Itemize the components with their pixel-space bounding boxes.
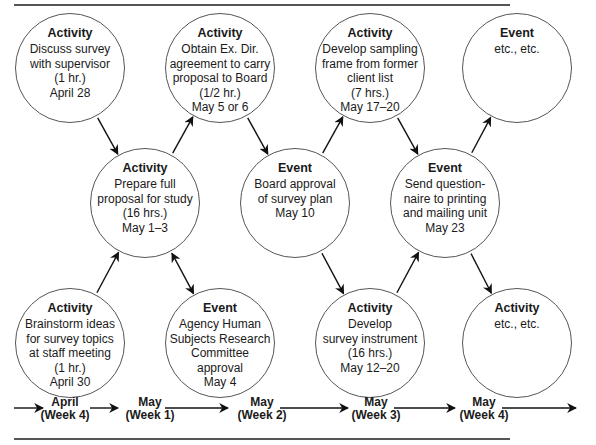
arrow-connector [248, 118, 268, 154]
node-discuss-survey: Activity Discuss survey with supervisor … [15, 13, 125, 123]
node-text: May 4 [204, 375, 237, 390]
arrow-connector [322, 253, 344, 293]
node-text: agreement to carry [170, 57, 271, 72]
node-kind: Event [278, 161, 312, 175]
node-text: Obtain Ex. Dir. [181, 42, 258, 57]
timeline-week: (Week 4) [25, 409, 105, 422]
node-text: Send question- [405, 177, 486, 192]
timeline-label: April (Week 4) [25, 396, 105, 422]
node-text: Committee [191, 346, 249, 361]
node-text: Develop [348, 317, 392, 332]
timeline-week: (Week 4) [444, 409, 524, 422]
arrow-connector [98, 118, 118, 154]
node-text: April 30 [50, 375, 91, 390]
node-kind: Activity [122, 161, 167, 175]
node-text: April 28 [50, 86, 91, 101]
node-brainstorm-ideas: Activity Brainstorm ideas for survey top… [15, 288, 125, 398]
timeline-week: (Week 1) [110, 409, 190, 422]
node-send-questionnaire: Event Send question- naire to printing a… [390, 148, 500, 258]
node-text: survey instrument [323, 332, 418, 347]
timeline-label: May (Week 3) [336, 396, 416, 422]
node-text: at staff meeting [29, 346, 111, 361]
node-committee-approval: Event Agency Human Subjects Research Com… [165, 288, 275, 398]
arrow-connector [472, 117, 491, 152]
node-text: (7 hrs.) [351, 86, 389, 101]
timeline-week: (Week 3) [336, 409, 416, 422]
arrow-connector [397, 252, 419, 292]
arrow-connector [323, 117, 343, 153]
node-text: proposal to Board [173, 71, 268, 86]
node-text: May 12–20 [340, 361, 399, 376]
node-text: (16 hrs.) [348, 346, 393, 361]
node-text: Board approval [254, 177, 335, 192]
node-kind: Activity [47, 301, 92, 315]
node-text: Prepare full [114, 177, 175, 192]
node-board-approval: Event Board approval of survey plan May … [240, 148, 350, 258]
node-kind: Activity [197, 26, 242, 40]
node-text: naire to printing [404, 192, 487, 207]
timeline-week: (Week 2) [222, 409, 302, 422]
node-sampling-frame: Activity Develop sampling frame from for… [315, 13, 425, 123]
node-text: proposal for study [97, 192, 192, 207]
node-text: frame from former [322, 57, 418, 72]
timeline-label: May (Week 4) [444, 396, 524, 422]
node-kind: Event [203, 301, 237, 315]
double-arrow-connector [172, 253, 194, 293]
node-text: of survey plan [258, 192, 333, 207]
node-text: May 5 or 6 [192, 100, 249, 115]
node-kind: Event [428, 161, 462, 175]
node-text: for survey topics [26, 332, 113, 347]
node-survey-instrument: Activity Develop survey instrument (16 h… [315, 288, 425, 398]
node-activity-etc: Activity etc., etc. [462, 288, 572, 398]
node-text: (1 hr.) [54, 71, 85, 86]
node-text: (1 hr.) [54, 361, 85, 376]
arrow-connector [97, 252, 119, 292]
node-text: May 17–20 [340, 100, 399, 115]
node-kind: Activity [47, 26, 92, 40]
node-kind: Activity [347, 301, 392, 315]
node-obtain-agreement: Activity Obtain Ex. Dir. agreement to ca… [165, 13, 275, 123]
node-text: (16 hrs.) [123, 206, 168, 221]
node-text: May 23 [425, 221, 464, 236]
node-text: etc., etc. [494, 317, 539, 332]
node-kind: Activity [494, 301, 539, 315]
node-kind: Event [500, 26, 534, 40]
node-text: and mailing unit [403, 206, 487, 221]
arrow-connector [398, 118, 418, 154]
node-prepare-proposal: Activity Prepare full proposal for study… [90, 148, 200, 258]
node-text: May 1–3 [122, 221, 168, 236]
node-kind: Activity [347, 26, 392, 40]
node-text: with supervisor [30, 57, 110, 72]
timeline-label: May (Week 1) [110, 396, 190, 422]
node-text: (1/2 hr.) [199, 86, 240, 101]
node-text: Agency Human [179, 317, 261, 332]
node-text: Subjects Research [170, 332, 271, 347]
node-text: Brainstorm ideas [25, 317, 115, 332]
node-text: etc., etc. [494, 42, 539, 57]
node-text: approval [197, 361, 243, 376]
arrow-connector [471, 254, 491, 294]
node-text: Discuss survey [30, 42, 111, 57]
node-text: May 10 [275, 206, 314, 221]
timeline-label: May (Week 2) [222, 396, 302, 422]
node-text: Develop sampling [322, 42, 417, 57]
node-text: client list [347, 71, 393, 86]
node-event-etc: Event etc., etc. [462, 13, 572, 123]
arrow-connector [173, 117, 193, 153]
